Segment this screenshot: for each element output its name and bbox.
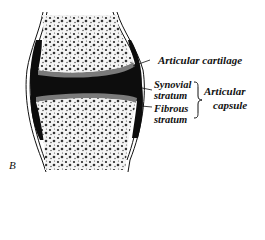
label-synovial-stratum: stratum [154,91,187,102]
figure-letter: B [9,160,16,171]
label-synovial: Synovial [154,80,191,91]
label-articular-cartilage: Articular cartilage [158,55,242,66]
label-articular: Articular [204,86,246,97]
label-capsule: capsule [213,100,247,111]
label-fibrous-stratum: stratum [154,115,187,126]
label-fibrous: Fibrous [154,104,188,115]
lower-bone-spongy [30,95,140,175]
capsule-brace [194,82,202,118]
